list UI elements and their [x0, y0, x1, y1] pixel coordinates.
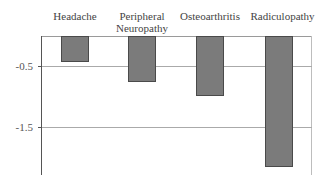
category-label-osteoarthritis: Osteoarthritis [175, 10, 245, 22]
bar-osteoarthritis [196, 36, 224, 96]
y-tick-label-neg-1-5: -1.5 [0, 121, 33, 133]
y-tick-neg-1-5 [38, 127, 41, 128]
category-label-headache: Headache [45, 10, 105, 22]
y-tick-neg-0-5 [38, 66, 41, 67]
bar-headache [61, 36, 89, 62]
category-label-radiculopathy: Radiculopathy [245, 10, 320, 22]
category-label-peripheral-neuropathy: Peripheral Neuropathy [107, 10, 177, 34]
y-tick-label-neg-0-5: -0.5 [0, 60, 33, 72]
plot-right-border [311, 36, 312, 175]
bar-radiculopathy [265, 36, 293, 167]
y-axis [41, 36, 42, 175]
bar-peripheral-neuropathy [128, 36, 156, 82]
